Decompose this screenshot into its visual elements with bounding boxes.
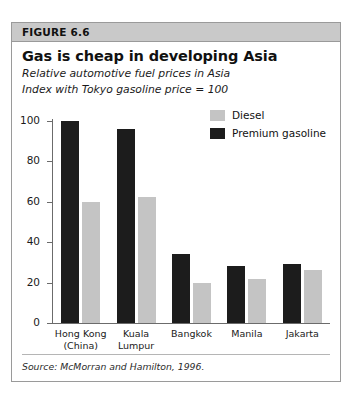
bar-premium-gasoline: [117, 129, 135, 323]
y-axis-tick-label: 100: [0, 114, 40, 126]
chart-legend: Diesel Premium gasoline: [210, 109, 326, 145]
category-label-line: Bangkok: [164, 328, 219, 340]
category-label: Manila: [219, 328, 274, 340]
y-axis-tick-mark: [47, 242, 52, 243]
y-axis-tick-mark: [47, 323, 52, 324]
category-label-line: Hong Kong: [53, 328, 108, 340]
legend-swatch-premium-gasoline-icon: [210, 128, 225, 139]
category-label-line: Jakarta: [275, 328, 330, 340]
legend-label-premium-gasoline: Premium gasoline: [232, 127, 326, 139]
y-axis-tick-label: 0: [0, 316, 40, 328]
y-axis-tick-label: 60: [0, 195, 40, 207]
legend-item-diesel: Diesel: [210, 109, 326, 121]
bar-premium-gasoline: [227, 266, 245, 323]
bar-diesel: [248, 279, 266, 323]
category-label: Jakarta: [275, 328, 330, 340]
category-label: Hong Kong(China): [53, 328, 108, 351]
category-label-line: Manila: [219, 328, 274, 340]
y-axis-tick-label: 80: [0, 154, 40, 166]
source-note: Source: McMorran and Hamilton, 1996.: [22, 361, 204, 372]
legend-item-premium-gasoline: Premium gasoline: [210, 127, 326, 139]
bar-diesel: [138, 197, 156, 323]
bar-diesel: [193, 283, 211, 323]
y-axis-tick-mark: [47, 202, 52, 203]
legend-swatch-diesel-icon: [210, 110, 225, 121]
bar-group: [117, 121, 156, 323]
bar-diesel: [82, 202, 100, 323]
bar-group: [283, 121, 322, 323]
bar-group: [61, 121, 100, 323]
y-axis-tick-mark: [47, 121, 52, 122]
bar-group: [172, 121, 211, 323]
source-divider: [22, 354, 330, 355]
y-axis-tick-mark: [47, 283, 52, 284]
bar-group: [227, 121, 266, 323]
y-axis-tick-label: 20: [0, 276, 40, 288]
category-label: Bangkok: [164, 328, 219, 340]
y-axis-tick-mark: [47, 161, 52, 162]
category-label-line: (China): [53, 340, 108, 352]
figure-frame: FIGURE 6.6 Gas is cheap in developing As…: [11, 22, 341, 382]
bar-premium-gasoline: [172, 254, 190, 323]
y-axis-line: [52, 119, 53, 324]
category-label-line: Kuala Lumpur: [108, 328, 163, 351]
legend-label-diesel: Diesel: [232, 109, 264, 121]
y-axis-tick-label: 40: [0, 235, 40, 247]
category-label: Kuala Lumpur: [108, 328, 163, 351]
plot-area: 020406080100 Hong Kong(China)Kuala Lumpu…: [12, 23, 340, 381]
bar-diesel: [304, 270, 322, 323]
bar-premium-gasoline: [283, 264, 301, 323]
bar-premium-gasoline: [61, 121, 79, 323]
x-axis-line: [52, 323, 330, 324]
